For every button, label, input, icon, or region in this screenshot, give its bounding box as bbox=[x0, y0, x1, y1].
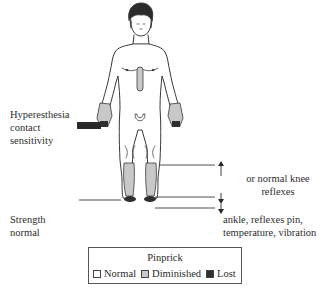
right-foot-lost bbox=[144, 196, 156, 202]
contact-sensitivity-bar bbox=[77, 122, 101, 129]
label-line: or normal knee bbox=[238, 172, 318, 185]
legend-item-lost: Lost bbox=[206, 268, 236, 280]
legend-label: Diminished bbox=[152, 268, 201, 280]
label-line: Strength bbox=[10, 213, 46, 226]
label-line: temperature, vibration bbox=[223, 226, 316, 239]
label-line: normal bbox=[10, 226, 46, 239]
up-arrow-icon bbox=[218, 161, 224, 176]
lost-swatch-icon bbox=[206, 270, 214, 278]
label-line: contact bbox=[10, 121, 69, 134]
label-line: reflexes bbox=[238, 185, 318, 198]
label-line: sensitivity bbox=[10, 134, 69, 147]
legend-item-diminished: Diminished bbox=[141, 268, 201, 280]
sternum-diminished-area bbox=[137, 67, 143, 91]
normal-swatch-icon bbox=[93, 270, 101, 278]
down-arrow-icon bbox=[218, 193, 224, 204]
head bbox=[129, 3, 153, 36]
legend-item-normal: Normal bbox=[93, 268, 136, 280]
pinprick-legend: Pinprick Normal Diminished Lost bbox=[88, 247, 242, 284]
label-line: ankle, reflexes pin, bbox=[223, 213, 316, 226]
ankle-reflexes-label: ankle, reflexes pin, temperature, vibrat… bbox=[223, 213, 316, 239]
hyperesthesia-label: Hyperesthesia contact sensitivity bbox=[10, 108, 69, 147]
legend-label: Normal bbox=[104, 268, 136, 280]
right-hand-glove bbox=[168, 103, 183, 127]
legend-title: Pinprick bbox=[89, 252, 241, 264]
left-foot-lost bbox=[124, 196, 136, 202]
legend-items: Normal Diminished Lost bbox=[93, 268, 239, 280]
diminished-swatch-icon bbox=[141, 270, 149, 278]
label-line: Hyperesthesia bbox=[10, 108, 69, 121]
knee-reflexes-label: or normal knee reflexes bbox=[238, 172, 318, 198]
right-leg-stocking bbox=[146, 163, 157, 196]
left-leg-stocking bbox=[124, 163, 135, 196]
legend-label: Lost bbox=[217, 268, 236, 280]
strength-label: Strength normal bbox=[10, 213, 46, 239]
